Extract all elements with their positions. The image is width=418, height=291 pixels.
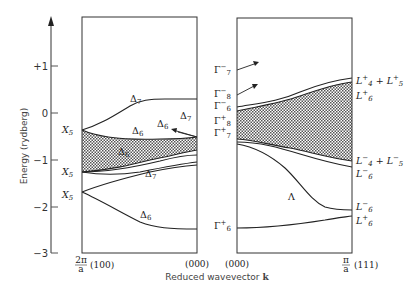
gamma-labels: Γ−7 Γ−8 Γ−6 Γ+8 Γ+7 Γ+6: [214, 63, 231, 233]
tick-minus3: −3: [33, 248, 48, 259]
left-end-label: (000): [185, 259, 209, 269]
tick-0: 0: [42, 108, 48, 119]
label-lambda: Λ: [287, 191, 295, 202]
label-delta6-bottom: Δ6: [140, 209, 152, 222]
label-gamma7-minus: Γ−7: [214, 63, 231, 77]
label-l6m-upper: L−6: [355, 167, 373, 181]
energy-axis: +1 0 −1 −2 −3 Energy (rydberg): [19, 16, 58, 259]
left-start-frac-den: a: [78, 264, 84, 274]
label-gamma6-plus: Γ+6: [214, 219, 231, 233]
label-delta7-lower: Δ7: [145, 168, 156, 181]
label-x5-bottom: X5: [61, 189, 74, 202]
x-axis-title: Reduced wavevector k: [165, 272, 269, 282]
label-delta6-upper: Δ6: [132, 125, 144, 138]
label-x5-mid: X5: [61, 166, 74, 179]
right-end-frac-den: a: [343, 264, 349, 274]
right-panel-lambda: Λ L+4 + L+5 L+6 L−4 + L−5 L−6 L−6 L+6: [237, 18, 404, 253]
tick-minus1: −1: [33, 155, 48, 166]
tick-minus2: −2: [33, 202, 48, 213]
tick-plus1: +1: [33, 61, 48, 72]
label-l6p-upper: L+6: [355, 89, 373, 103]
band-structure-figure: +1 0 −1 −2 −3 Energy (rydberg) X5 X5 X5 …: [0, 0, 418, 291]
right-end-label: (111): [354, 260, 378, 270]
label-delta7-arrow: Δ7: [180, 110, 191, 123]
label-x5-top: X5: [61, 124, 74, 137]
axis-arrow-icon: [48, 16, 54, 26]
label-l4p-l5p: L+4 + L+5: [355, 74, 404, 88]
left-panel-delta: X5 X5 X5 Δ7 Δ6 Δ7 Δ6 Δ6 Δ7 Δ6: [61, 17, 197, 253]
label-gamma6-minus: Γ−6: [214, 99, 231, 113]
label-delta7-top: Δ7: [130, 93, 141, 106]
y-axis-title: Energy (rydberg): [19, 108, 29, 185]
label-l4m-l5m: L−4 + L−5: [355, 154, 404, 168]
left-start-label: (100): [90, 260, 114, 270]
label-l6p-lower: L+6: [355, 214, 373, 228]
label-gamma7-plus: Γ+7: [214, 126, 231, 140]
wavevector-axis: 2π a (100) (000) (000) π a (111) Reduced…: [75, 255, 378, 282]
label-l6m-lower: L−6: [355, 200, 373, 214]
right-start-label: (000): [225, 259, 249, 269]
label-delta6-arrow: Δ6: [157, 118, 169, 131]
